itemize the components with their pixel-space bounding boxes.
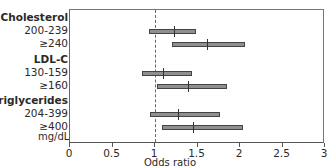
group-label-cholesterol: Cholesterol [1,11,69,23]
x-tick-label: 0.5 [103,147,120,159]
odds-ratio-marker [207,39,208,50]
odds-ratio-marker [188,81,189,92]
x-tick-label: 3 [321,147,328,159]
row-label: 204-399 [24,107,68,119]
x-tick-label: 2.5 [273,147,290,159]
odds-ratio-marker [163,68,164,79]
row-label: ≥160 [39,79,68,91]
ci-bar [157,84,228,89]
odds-ratio-marker [178,109,179,120]
unit-label: mg/dL [38,131,69,143]
ci-bar [149,29,196,34]
group-label-ldl-c: LDL-C [34,53,68,65]
ci-bar [150,112,220,117]
x-tick-label: 2 [236,147,243,159]
row-label: 130-159 [24,66,68,78]
plot-area [69,9,324,143]
group-label-triglycerides: Triglycerides [0,94,68,106]
ci-bar [142,71,192,76]
x-axis-label: Odds ratio [144,157,196,168]
odds-ratio-marker [193,122,194,133]
row-label: 200-239 [24,24,68,36]
row-label: ≥240 [39,37,68,49]
x-tick-label: 0 [66,147,73,159]
ci-bar [172,42,245,47]
odds-ratio-marker [174,26,175,37]
ci-bar [162,125,244,130]
